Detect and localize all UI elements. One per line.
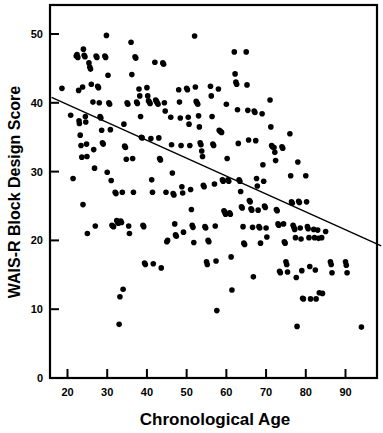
data-point bbox=[161, 61, 167, 67]
data-point bbox=[94, 55, 100, 61]
data-point bbox=[77, 132, 83, 138]
data-point bbox=[293, 235, 299, 241]
data-point bbox=[263, 225, 269, 231]
data-point bbox=[255, 207, 261, 213]
data-point bbox=[179, 184, 185, 190]
data-point bbox=[152, 59, 158, 65]
data-point bbox=[198, 142, 204, 148]
data-point bbox=[126, 223, 132, 229]
data-point bbox=[285, 269, 291, 275]
data-point bbox=[264, 234, 270, 240]
x-tick-label-40: 40 bbox=[141, 386, 153, 398]
data-point bbox=[196, 113, 202, 119]
data-point bbox=[119, 220, 125, 226]
data-point bbox=[284, 262, 290, 268]
data-point bbox=[107, 101, 113, 107]
data-point bbox=[313, 267, 319, 273]
data-point bbox=[93, 223, 99, 229]
data-point bbox=[104, 169, 110, 175]
data-point bbox=[116, 322, 122, 328]
data-point bbox=[323, 229, 329, 235]
data-point bbox=[343, 262, 349, 268]
data-point bbox=[281, 221, 287, 227]
data-point bbox=[303, 173, 309, 179]
data-point bbox=[185, 87, 191, 93]
data-point bbox=[208, 93, 214, 99]
data-point bbox=[158, 265, 164, 271]
data-point bbox=[257, 225, 263, 231]
data-point bbox=[129, 72, 135, 78]
figure-container: 01020304050 2030405060708090 WAIS-R Bloc… bbox=[0, 0, 383, 433]
data-point bbox=[306, 235, 312, 241]
data-point bbox=[75, 55, 81, 61]
data-point bbox=[199, 148, 205, 154]
data-point bbox=[83, 119, 89, 125]
data-point bbox=[250, 225, 256, 231]
data-point bbox=[208, 83, 214, 89]
y-tick-label-50: 50 bbox=[31, 28, 43, 40]
data-point bbox=[174, 233, 180, 239]
data-point bbox=[255, 183, 261, 189]
data-point bbox=[123, 145, 129, 151]
data-point bbox=[262, 205, 268, 211]
data-point bbox=[108, 127, 114, 133]
data-point bbox=[91, 147, 97, 153]
data-point bbox=[288, 173, 294, 179]
data-point bbox=[137, 93, 143, 99]
data-point bbox=[144, 85, 150, 91]
data-point bbox=[232, 71, 238, 77]
data-point bbox=[155, 101, 161, 107]
data-point-group bbox=[59, 33, 364, 330]
data-point bbox=[96, 85, 102, 91]
data-point bbox=[297, 225, 303, 231]
y-tick-label-40: 40 bbox=[31, 97, 43, 109]
data-point bbox=[274, 208, 280, 214]
data-point bbox=[203, 225, 209, 231]
data-point bbox=[158, 157, 164, 163]
data-point bbox=[200, 154, 206, 160]
data-point bbox=[319, 235, 325, 241]
data-point bbox=[162, 108, 168, 114]
data-point bbox=[220, 178, 226, 184]
data-point bbox=[82, 54, 88, 60]
x-tick-label-90: 90 bbox=[339, 386, 351, 398]
data-point bbox=[177, 99, 183, 105]
data-point bbox=[178, 143, 184, 149]
data-point bbox=[103, 55, 109, 61]
data-point bbox=[195, 101, 201, 107]
data-point bbox=[313, 296, 319, 302]
data-point bbox=[131, 189, 137, 195]
x-tick-label-50: 50 bbox=[181, 386, 193, 398]
x-axis-tick-labels: 2030405060708090 bbox=[61, 386, 351, 398]
data-point bbox=[90, 99, 96, 105]
data-point bbox=[212, 223, 218, 229]
data-point bbox=[177, 115, 183, 121]
data-point bbox=[96, 100, 102, 106]
data-point bbox=[176, 87, 182, 93]
data-point bbox=[80, 84, 86, 90]
data-point bbox=[293, 275, 299, 281]
data-point bbox=[187, 143, 193, 149]
data-point bbox=[299, 268, 305, 274]
data-point bbox=[77, 121, 83, 127]
data-point bbox=[301, 296, 307, 302]
data-point bbox=[228, 211, 234, 217]
data-point bbox=[315, 227, 321, 233]
data-point bbox=[253, 138, 259, 144]
data-point bbox=[180, 190, 186, 196]
data-point bbox=[271, 145, 277, 151]
data-point bbox=[99, 128, 105, 134]
data-point bbox=[88, 66, 94, 72]
data-point bbox=[224, 101, 230, 107]
data-point bbox=[80, 202, 86, 208]
data-point bbox=[308, 296, 314, 302]
data-point bbox=[186, 121, 192, 127]
data-point bbox=[189, 207, 195, 213]
x-tick-label-30: 30 bbox=[101, 386, 113, 398]
data-point bbox=[213, 258, 219, 264]
y-tick-label-20: 20 bbox=[31, 234, 43, 246]
data-point bbox=[294, 324, 300, 330]
data-point bbox=[78, 143, 84, 149]
data-point bbox=[169, 142, 175, 148]
data-point bbox=[117, 294, 123, 300]
